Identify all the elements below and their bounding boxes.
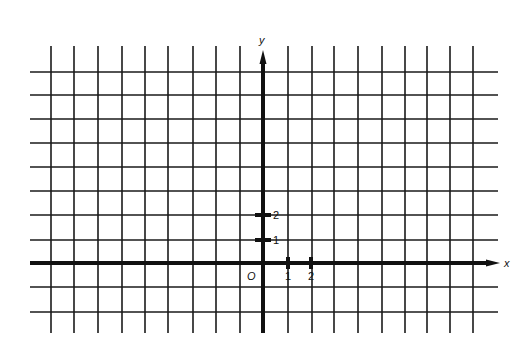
origin-label: O: [247, 270, 256, 282]
x-axis-label: x: [503, 257, 510, 269]
y-tick-label-1: 1: [273, 234, 279, 246]
coordinate-grid: x y O 1 2 1 2: [0, 0, 531, 348]
x-tick-label-1: 1: [285, 270, 291, 282]
x-tick-label-2: 2: [308, 270, 314, 282]
background: [0, 0, 531, 348]
y-tick-label-2: 2: [273, 209, 279, 221]
x-tick-mark: [286, 257, 290, 269]
y-tick-mark: [255, 213, 271, 217]
x-tick-mark: [309, 257, 313, 269]
y-tick-mark: [255, 238, 271, 242]
